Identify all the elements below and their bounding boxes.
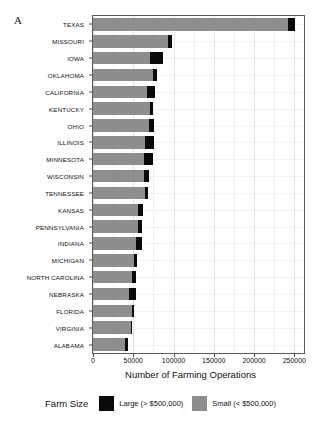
bar-row[interactable] xyxy=(93,254,137,266)
legend-swatch-large xyxy=(99,396,114,411)
bar-segment-large xyxy=(153,69,157,81)
y-axis-tick xyxy=(89,192,92,193)
bar-segment-large xyxy=(138,204,143,216)
bar-segment-large xyxy=(132,271,136,283)
y-axis-tick xyxy=(89,277,92,278)
y-axis-label: KENTUCKY xyxy=(49,105,84,112)
legend-swatch-small xyxy=(192,396,207,411)
bar-segment-small xyxy=(93,136,145,148)
bar-segment-small xyxy=(93,220,138,232)
legend-title: Farm Size xyxy=(45,398,88,409)
y-axis-tick xyxy=(89,327,92,328)
y-axis-tick xyxy=(89,226,92,227)
bar-row[interactable] xyxy=(93,153,153,165)
y-axis-tick xyxy=(89,243,92,244)
x-axis-title: Number of Farming Operations xyxy=(0,369,321,380)
bar-segment-large xyxy=(150,102,152,114)
bar-row[interactable] xyxy=(93,136,154,148)
bar-segment-large xyxy=(134,254,137,266)
bar-segment-large xyxy=(144,170,150,182)
figure-root: A TEXASMISSOURIIOWAOKLAHOMACALIFORNIAKEN… xyxy=(0,0,321,429)
y-axis-label: ILLINOIS xyxy=(57,139,84,146)
bar-row[interactable] xyxy=(93,305,134,317)
bar-segment-large xyxy=(138,220,142,232)
legend-item-small[interactable]: Small (< $500,000) xyxy=(192,396,276,411)
bar-row[interactable] xyxy=(93,86,155,98)
y-axis-label: FLORIDA xyxy=(56,307,84,314)
bar-segment-small xyxy=(93,254,134,266)
bar-segment-small xyxy=(93,170,144,182)
y-axis-label: MISSOURI xyxy=(52,38,84,45)
y-axis-label: INDIANA xyxy=(58,240,84,247)
bar-series-group xyxy=(93,16,304,353)
y-axis-label: TEXAS xyxy=(63,21,84,28)
x-axis-tick-label: 50000 xyxy=(124,357,143,364)
bar-segment-small xyxy=(93,321,131,333)
bar-segment-small xyxy=(93,288,129,300)
y-axis-label: OKLAHOMA xyxy=(48,71,84,78)
bar-row[interactable] xyxy=(93,187,148,199)
bar-row[interactable] xyxy=(93,69,157,81)
y-axis-tick xyxy=(89,344,92,345)
bar-row[interactable] xyxy=(93,321,132,333)
y-axis-tick xyxy=(89,91,92,92)
y-axis-label: PENNSYLVANIA xyxy=(36,223,84,230)
bar-segment-large xyxy=(168,35,172,47)
bar-segment-small xyxy=(93,338,125,350)
y-axis-tick xyxy=(89,108,92,109)
bar-segment-large xyxy=(150,52,163,64)
bar-segment-small xyxy=(93,153,144,165)
x-axis-tick-label: 150000 xyxy=(202,357,225,364)
y-axis-label: MINNESOTA xyxy=(46,156,84,163)
bar-row[interactable] xyxy=(93,338,128,350)
plot-panel xyxy=(92,15,305,354)
bar-row[interactable] xyxy=(93,119,154,131)
bar-segment-small xyxy=(93,18,288,30)
y-axis-tick xyxy=(89,310,92,311)
bar-segment-small xyxy=(93,35,168,47)
bar-segment-small xyxy=(93,52,150,64)
bar-segment-small xyxy=(93,305,132,317)
y-axis-tick xyxy=(89,41,92,42)
bar-segment-large xyxy=(149,119,153,131)
legend: Farm Size Large (> $500,000) Small (< $5… xyxy=(0,396,321,411)
y-axis-tick xyxy=(89,58,92,59)
y-axis-labels: TEXASMISSOURIIOWAOKLAHOMACALIFORNIAKENTU… xyxy=(0,15,92,354)
bar-segment-large xyxy=(145,187,148,199)
bar-segment-large xyxy=(288,18,295,30)
bar-row[interactable] xyxy=(93,237,142,249)
bar-segment-large xyxy=(129,288,136,300)
bar-row[interactable] xyxy=(93,271,136,283)
bar-segment-small xyxy=(93,271,132,283)
y-axis-tick xyxy=(89,24,92,25)
y-axis-tick xyxy=(89,142,92,143)
x-axis-tick-label: 200000 xyxy=(242,357,265,364)
y-axis-tick xyxy=(89,209,92,210)
bar-row[interactable] xyxy=(93,35,172,47)
y-axis-label: ALABAMA xyxy=(54,341,84,348)
x-axis-tick-labels: 050000100000150000200000250000 xyxy=(0,357,321,369)
bar-row[interactable] xyxy=(93,102,153,114)
y-axis-label: NEBRASKA xyxy=(49,291,84,298)
y-axis-tick xyxy=(89,125,92,126)
bar-segment-large xyxy=(125,338,128,350)
bar-segment-large xyxy=(145,136,154,148)
bar-segment-small xyxy=(93,69,153,81)
bar-row[interactable] xyxy=(93,170,149,182)
legend-item-large[interactable]: Large (> $500,000) xyxy=(99,396,183,411)
bar-row[interactable] xyxy=(93,18,295,30)
x-axis-tick-label: 100000 xyxy=(162,357,185,364)
bar-row[interactable] xyxy=(93,220,142,232)
bar-segment-large xyxy=(144,153,153,165)
y-axis-label: MICHIGAN xyxy=(52,257,84,264)
bar-segment-small xyxy=(93,204,138,216)
y-axis-label: VIRGINIA xyxy=(56,324,84,331)
legend-label-large: Large (> $500,000) xyxy=(119,399,183,408)
bar-segment-small xyxy=(93,119,149,131)
y-axis-tick xyxy=(89,260,92,261)
bar-segment-large xyxy=(132,305,134,317)
bar-row[interactable] xyxy=(93,52,163,64)
bar-row[interactable] xyxy=(93,204,143,216)
bar-row[interactable] xyxy=(93,288,136,300)
bar-segment-large xyxy=(147,86,155,98)
